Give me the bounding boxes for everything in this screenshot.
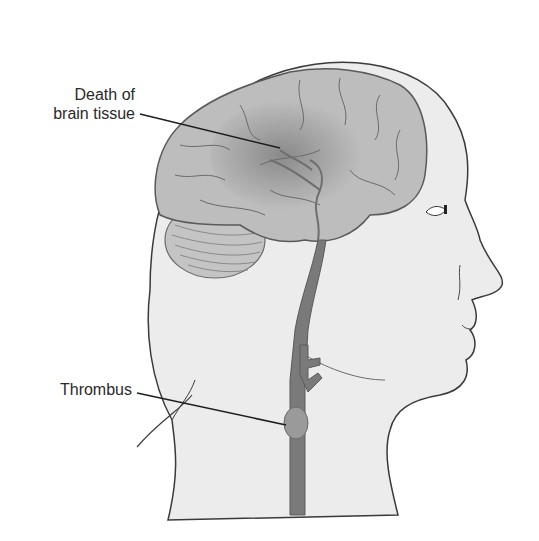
label-death-line2: brain tissue xyxy=(20,104,135,123)
label-death-line1: Death of xyxy=(20,85,135,104)
thrombus xyxy=(284,407,308,439)
label-death-of-brain-tissue: Death of brain tissue xyxy=(20,85,135,123)
label-thrombus: Thrombus xyxy=(20,380,132,399)
pupil xyxy=(444,205,447,214)
stroke-diagram: Death of brain tissue Thrombus xyxy=(0,0,539,541)
head-illustration xyxy=(0,0,539,541)
